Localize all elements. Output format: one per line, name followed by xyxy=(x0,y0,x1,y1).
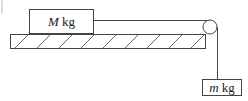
pulley-diagram: M kg m kg xyxy=(0,0,248,101)
block-m-label: m kg xyxy=(209,80,235,95)
table-outline xyxy=(11,35,206,49)
block-m: m kg xyxy=(203,80,242,96)
table xyxy=(11,34,206,49)
pulley xyxy=(203,20,217,34)
block-M-label: M kg xyxy=(47,14,76,29)
block-M: M kg xyxy=(30,10,94,34)
table-hatching xyxy=(14,34,205,49)
